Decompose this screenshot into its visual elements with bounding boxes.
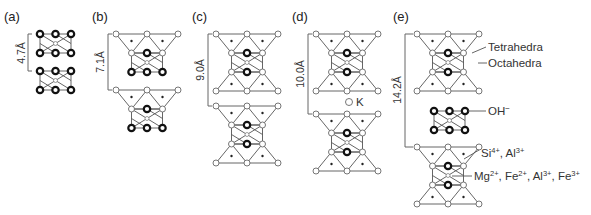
potassium-label: K	[356, 96, 364, 108]
panel-b: (b) 7.1Å	[92, 9, 181, 131]
brucite-layer-lower	[37, 68, 74, 93]
potassium-ion-icon	[346, 99, 353, 106]
spacing-bracket-b: 7.1Å	[94, 34, 112, 90]
spacing-label-d: 10.0Å	[294, 60, 306, 87]
tet-cation-leader	[464, 150, 479, 159]
spacing-label-a: 4.7Å	[15, 42, 27, 64]
mica-layer-lower	[313, 111, 381, 174]
panel-e-label: (e)	[393, 9, 409, 24]
panel-d: (d) 10.0Å K	[292, 9, 381, 174]
kaolinite-layer-upper	[113, 31, 181, 75]
chlorite-layer-upper	[414, 31, 482, 94]
brucite-layer-upper	[37, 31, 74, 56]
spacing-label-b: 7.1Å	[94, 51, 106, 73]
spacing-bracket-c: 9.0Å	[194, 34, 212, 106]
diagram-canvas: (a) 4.7Å (b) 7.1Å (c) 9.0Å (d) 10.0Å	[0, 0, 591, 215]
panel-b-label: (b)	[92, 9, 108, 24]
spacing-bracket-d: 10.0Å	[294, 34, 312, 114]
tet-cations-label: Si4+, Al3+	[481, 146, 525, 159]
oct-cations-label: Mg2+, Fe2+, Al3+, Fe3+	[474, 169, 580, 182]
clay-mineral-structure-diagram: (a) 4.7Å (b) 7.1Å (c) 9.0Å (d) 10.0Å	[0, 0, 591, 215]
spacing-label-c: 9.0Å	[194, 59, 206, 81]
spacing-bracket-e: 14.2Å	[391, 34, 413, 147]
talc-layer-lower	[213, 103, 281, 166]
octahedra-label: Octahedra	[488, 57, 542, 69]
panel-e: (e) 14.2Å Tetrahedra Octahedra OH− Si4+,…	[391, 9, 580, 207]
kaolinite-layer-lower	[113, 87, 181, 131]
panel-c-label: (c)	[192, 9, 207, 24]
chlorite-layer-lower	[414, 144, 482, 207]
spacing-bracket-a: 4.7Å	[15, 34, 32, 71]
talc-layer-upper	[213, 31, 281, 94]
panel-a: (a) 4.7Å	[4, 9, 74, 93]
panel-d-label: (d)	[292, 9, 308, 24]
panel-a-label: (a)	[4, 9, 20, 24]
tetrahedra-label: Tetrahedra	[488, 41, 544, 53]
panel-c: (c) 9.0Å	[192, 9, 281, 166]
hydroxyl-label: OH−	[488, 104, 510, 117]
spacing-label-e: 14.2Å	[391, 76, 403, 103]
mica-layer-upper	[313, 31, 381, 94]
brucite-interlayer	[431, 108, 468, 133]
tetrahedra-leader	[472, 47, 486, 53]
